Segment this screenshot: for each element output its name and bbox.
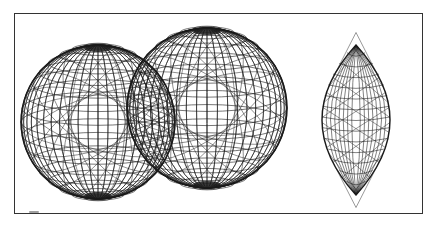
diagram-canvas — [0, 0, 438, 225]
corner-mark — [29, 211, 39, 213]
wireframe-drawing — [0, 0, 438, 225]
intersection-lens — [322, 33, 390, 208]
sphere-left — [16, 40, 179, 203]
